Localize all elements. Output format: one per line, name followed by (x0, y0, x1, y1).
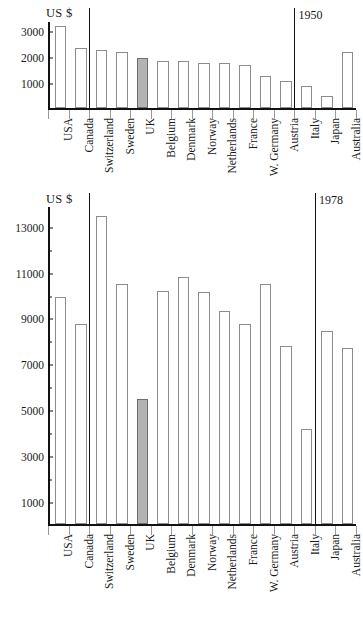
x-category-label: W. Germany (269, 534, 281, 592)
y-tick-label: 1000 (0, 497, 44, 509)
x-category-label: Italy (310, 118, 322, 139)
bar-usa (55, 297, 66, 524)
x-category-label: France (248, 118, 260, 149)
x-category-label: Japan (330, 534, 342, 560)
bar-canada (75, 324, 86, 524)
chart-1978: US $ 100030005000700090001100013000 USAC… (0, 190, 363, 634)
y-tick-label: 2000 (0, 52, 44, 64)
bar-italy (301, 429, 312, 524)
x-category-separator (233, 110, 234, 119)
plot-area-1950 (48, 22, 356, 110)
y-tick-label: 13000 (0, 222, 44, 234)
y-axis-unit-label-1978: US $ (46, 192, 73, 207)
bar-japan (321, 96, 332, 108)
bar-austria (280, 346, 291, 524)
y-tick-label: 7000 (0, 359, 44, 371)
x-category-label: Australia (351, 534, 363, 576)
x-axis-category-labels-1950: USACanadaSwitzerlandSwedenUKBelgiumDenma… (0, 118, 363, 190)
x-category-separator (315, 526, 316, 535)
bar-italy (301, 86, 312, 108)
x-category-label: Italy (310, 534, 322, 555)
bar-sweden (116, 52, 127, 108)
x-category-label: Japan (330, 118, 342, 144)
bar-france (239, 65, 250, 108)
x-category-label: UK (145, 118, 157, 135)
bar-netherlands (219, 311, 230, 524)
x-category-label: Belgium (166, 118, 178, 158)
x-category-label: USA (63, 118, 75, 141)
x-category-separator (110, 110, 111, 119)
bar-norway (198, 63, 209, 108)
x-category-separator (274, 110, 275, 119)
x-category-separator (253, 110, 254, 119)
y-tick-label: 1000 (0, 78, 44, 90)
x-category-label: Austria (289, 118, 301, 152)
x-category-label: Norway (207, 534, 219, 571)
y-tick-label: 11000 (0, 268, 44, 280)
x-category-label: Denmark (186, 534, 198, 577)
bar-norway (198, 292, 209, 524)
x-category-label: Sweden (125, 534, 137, 570)
bar-australia (342, 348, 353, 524)
plot-area-1978 (48, 207, 356, 526)
bar-denmark (178, 61, 189, 108)
x-category-label: Canada (84, 118, 96, 152)
x-category-separator (356, 110, 357, 119)
x-category-separator (356, 526, 357, 535)
x-category-separator (89, 526, 90, 535)
x-category-separator (294, 110, 295, 119)
x-category-separator (130, 526, 131, 535)
x-category-label: W. Germany (269, 118, 281, 176)
x-category-label: Netherlands (227, 118, 239, 174)
x-category-label: USA (63, 534, 75, 557)
year-annotation: 1978 (319, 193, 343, 208)
x-category-separator (212, 110, 213, 119)
bar-denmark (178, 277, 189, 524)
bar-france (239, 324, 250, 524)
x-category-separator (130, 110, 131, 119)
x-category-separator (253, 526, 254, 535)
group-divider (315, 193, 316, 526)
x-category-separator (110, 526, 111, 535)
x-category-separator (335, 526, 336, 535)
y-tick-label: 9000 (0, 313, 44, 325)
x-category-separator (171, 110, 172, 119)
x-category-separator (192, 526, 193, 535)
bar-japan (321, 331, 332, 524)
x-category-separator (335, 110, 336, 119)
x-category-label: France (248, 534, 260, 565)
bar-sweden (116, 284, 127, 524)
x-category-label: Denmark (186, 118, 198, 161)
x-category-label: Sweden (125, 118, 137, 154)
y-tick-label: 3000 (0, 26, 44, 38)
x-category-label: Australia (351, 118, 363, 160)
bar-canada (75, 48, 86, 108)
x-category-separator (89, 110, 90, 119)
x-category-separator (294, 526, 295, 535)
chart-page: US $ 100020003000 USACanadaSwitzerlandSw… (0, 0, 363, 634)
x-category-separator (274, 526, 275, 535)
year-annotation: 1950 (298, 8, 322, 23)
bars-group-1978 (50, 207, 356, 524)
x-category-label: Canada (84, 534, 96, 568)
bar-usa (55, 26, 66, 108)
bar-w-germany (260, 284, 271, 524)
x-category-label: UK (145, 534, 157, 551)
bar-belgium (157, 291, 168, 524)
group-divider (294, 8, 295, 110)
x-category-label: Switzerland (104, 534, 116, 589)
x-category-separator (48, 110, 49, 119)
x-category-separator (233, 526, 234, 535)
x-category-separator (151, 110, 152, 119)
x-category-separator (315, 110, 316, 119)
bar-austria (280, 81, 291, 108)
x-category-label: Belgium (166, 534, 178, 574)
x-category-separator (212, 526, 213, 535)
x-category-separator (69, 110, 70, 119)
x-category-separator (69, 526, 70, 535)
x-category-label: Netherlands (227, 534, 239, 590)
x-category-separator (171, 526, 172, 535)
x-category-separator (151, 526, 152, 535)
x-axis-category-labels-1978: USACanadaSwitzerlandSwedenUKBelgiumDenma… (0, 534, 363, 630)
bar-netherlands (219, 63, 230, 108)
